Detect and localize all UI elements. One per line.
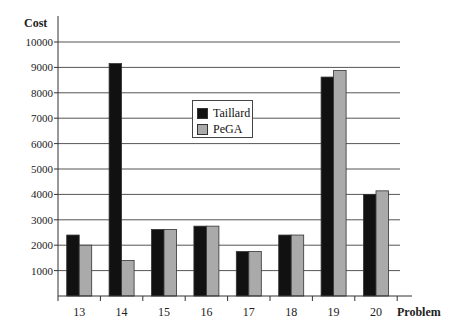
x-tick-label: 20 [370,305,382,319]
bar-taillard-17 [236,252,249,296]
y-tick-label: 3000 [31,214,54,226]
y-tick-label: 7000 [31,112,54,124]
y-axis-label: Cost [24,16,47,30]
bar-taillard-14 [109,64,122,296]
bar-taillard-15 [152,229,165,296]
bar-taillard-18 [279,235,292,296]
bar-pega-15 [164,229,177,296]
y-tick-label: 9000 [31,61,54,73]
bar-pega-19 [334,70,347,296]
y-tick-label: 4000 [31,188,54,200]
bars [67,64,389,296]
x-tick-label: 19 [328,305,340,319]
y-tick-label: 5000 [31,163,54,175]
legend-swatch-pega [197,124,208,135]
bar-taillard-20 [364,194,377,296]
x-tick-label: 16 [200,305,212,319]
bar-pega-17 [249,252,261,296]
x-tick-label: 17 [243,305,255,319]
bar-pega-14 [122,260,135,296]
x-axis-label: Problem [397,305,441,319]
y-tick-label: 1000 [31,265,54,277]
legend-label-pega: PeGA [213,122,242,137]
x-tick-label: 18 [285,305,297,319]
x-tick-label: 13 [73,305,85,319]
y-tick-label: 8000 [31,87,54,99]
bar-pega-16 [206,226,219,296]
y-tick-label: 10000 [26,36,54,48]
y-tick-label: 6000 [31,138,54,150]
bar-taillard-19 [321,77,334,296]
legend-item-pega: PeGA [197,122,242,136]
legend: Taillard PeGA [192,100,253,138]
bar-pega-18 [291,235,304,296]
bar-taillard-16 [194,226,207,296]
bar-pega-20 [376,191,389,296]
legend-item-taillard: Taillard [197,106,250,120]
bar-taillard-13 [67,235,80,296]
bar-pega-13 [79,245,92,296]
x-tick-label: 14 [116,305,128,319]
x-tick-label: 15 [158,305,170,319]
legend-swatch-taillard [197,108,208,119]
legend-label-taillard: Taillard [213,106,250,121]
bar-chart: 1000200030004000500060007000800090001000… [0,0,460,333]
y-tick-label: 2000 [31,239,54,251]
